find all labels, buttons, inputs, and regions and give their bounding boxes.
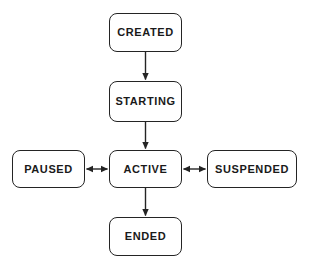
- state-node-created[interactable]: CREATED: [109, 13, 182, 52]
- state-diagram: CREATED STARTING ACTIVE PAUSED SUSPENDED…: [0, 0, 309, 270]
- state-node-active-label: ACTIVE: [124, 164, 168, 175]
- state-node-ended-label: ENDED: [125, 231, 167, 242]
- state-node-suspended-label: SUSPENDED: [215, 164, 289, 175]
- state-node-paused-label: PAUSED: [24, 164, 73, 175]
- state-node-paused[interactable]: PAUSED: [12, 150, 85, 188]
- state-node-suspended[interactable]: SUSPENDED: [207, 150, 297, 188]
- state-node-starting-label: STARTING: [115, 96, 175, 107]
- state-node-starting[interactable]: STARTING: [109, 81, 182, 122]
- state-node-active[interactable]: ACTIVE: [109, 150, 182, 188]
- state-node-ended[interactable]: ENDED: [109, 217, 182, 256]
- state-node-created-label: CREATED: [117, 27, 174, 38]
